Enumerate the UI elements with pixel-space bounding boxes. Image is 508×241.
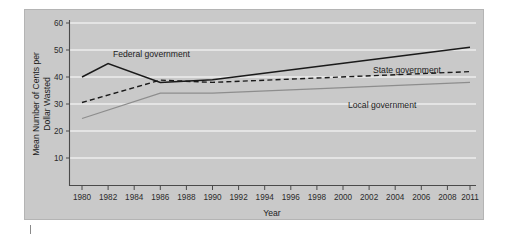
x-tick-label: 1988 [177, 193, 196, 202]
y-tick-labels: 60 50 40 30 20 10 [54, 19, 64, 163]
y-axis-title: Mean Number of Cents per Dollar Wasted [31, 52, 52, 156]
x-tick-label: 1984 [125, 193, 144, 202]
x-tick-label: 1990 [203, 193, 222, 202]
series-label-state-government: State government [373, 65, 441, 75]
x-tick-label: 2011 [461, 193, 479, 202]
x-tick-marks [82, 186, 470, 191]
x-tick-label: 2006 [412, 193, 431, 202]
y-tick-label: 10 [54, 154, 64, 163]
x-tick-label: 2002 [360, 193, 379, 202]
x-tick-label: 2008 [438, 193, 457, 202]
x-tick-label: 1980 [73, 193, 92, 202]
x-tick-label: 1998 [308, 193, 327, 202]
x-tick-label: 2000 [334, 193, 353, 202]
y-axis-title-line2: Dollar Wasted [42, 77, 52, 131]
series-line-state-government [82, 72, 470, 103]
y-axis-title-line1: Mean Number of Cents per [31, 52, 41, 156]
caption-marker [30, 225, 31, 234]
y-tick-label: 60 [54, 19, 64, 28]
chart-svg: 60 50 40 30 20 10 19 [0, 0, 508, 241]
y-tick-label: 50 [54, 46, 64, 55]
x-tick-label: 1996 [282, 193, 301, 202]
x-tick-label: 1992 [229, 193, 248, 202]
x-tick-label: 1986 [151, 193, 170, 202]
y-tick-label: 30 [54, 100, 64, 109]
x-tick-label: 1982 [99, 193, 118, 202]
x-tick-labels: 1980 1982 1984 1986 1988 1990 1992 1994 … [73, 193, 479, 202]
y-tick-label: 40 [54, 73, 64, 82]
figure: 60 50 40 30 20 10 19 [0, 0, 508, 241]
series-label-federal-government: Federal government [113, 49, 191, 59]
series-label-local-government: Local government [348, 100, 417, 110]
y-tick-label: 20 [54, 127, 64, 136]
x-tick-label: 1994 [256, 193, 275, 202]
x-tick-label: 2004 [386, 193, 405, 202]
x-axis-title: Year [263, 208, 281, 218]
